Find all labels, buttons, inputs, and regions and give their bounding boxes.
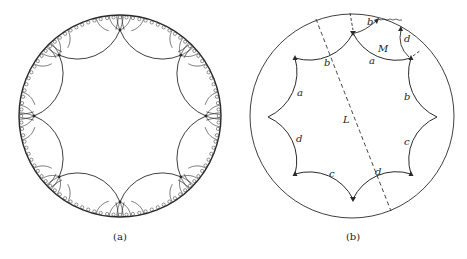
panel-b-fundamental-octagon (250, 13, 454, 218)
tiling-vertex (205, 115, 208, 118)
boundary-tile (22, 95, 25, 98)
tiling-edge (59, 30, 120, 59)
boundary-tile (106, 16, 109, 19)
boundary-tile (156, 206, 159, 209)
boundary-tile (173, 32, 176, 35)
boundary-tile (197, 54, 200, 57)
boundary-tile (118, 213, 121, 216)
dashed-segment-top (350, 13, 353, 30)
boundary-tile (112, 16, 115, 19)
boundary-tile (64, 32, 67, 35)
boundary-tile (162, 203, 165, 206)
tiling-edge (177, 55, 206, 116)
side-label-bottom-left: c (329, 168, 335, 179)
octagon-side (408, 58, 437, 117)
boundary-tile (20, 108, 23, 111)
boundary-tile (33, 164, 36, 167)
boundary-tile (64, 197, 67, 200)
boundary-tile (93, 210, 96, 213)
boundary-circle (19, 15, 221, 217)
boundary-tile (53, 40, 56, 43)
boundary-tile (193, 49, 196, 52)
boundary-tile (81, 206, 84, 209)
boundary-tile (138, 211, 141, 214)
side-label-upper-right: b (404, 91, 410, 102)
vertex-arrow (350, 197, 356, 202)
tiling-fan-geodesic (20, 105, 35, 140)
boundary-tile (87, 21, 90, 24)
boundary-tile (75, 26, 78, 29)
boundary-tile (179, 36, 182, 39)
tiling-fan-geodesic (109, 201, 144, 216)
boundary-tile (214, 89, 217, 92)
curve-label-M: M (377, 43, 389, 54)
boundary-tile (184, 40, 187, 43)
boundary-tile (156, 23, 159, 26)
tiling-edge (177, 116, 206, 177)
boundary-tile (207, 71, 210, 74)
boundary-circle (250, 14, 454, 218)
boundary-tile (53, 189, 56, 192)
octagon-side (409, 117, 437, 174)
tiling-vertex (58, 54, 61, 57)
boundary-tile (25, 83, 28, 86)
boundary-tile (144, 210, 147, 213)
tiling-edge (120, 173, 181, 202)
boundary-tile (201, 60, 204, 63)
boundary-tile (162, 26, 165, 29)
boundary-tile (210, 152, 213, 155)
boundary-tile (112, 213, 115, 216)
boundary-tile (22, 134, 25, 137)
tiling-edge (34, 55, 63, 116)
boundary-tile (36, 169, 39, 172)
boundary-tile (58, 36, 61, 39)
boundary-tile (188, 45, 191, 48)
boundary-tile (44, 49, 47, 52)
vertex-arrow (350, 31, 356, 36)
boundary-tile (106, 212, 109, 215)
boundary-tile (40, 54, 43, 57)
tiling-vertex (119, 29, 122, 32)
boundary-tile (27, 77, 30, 80)
tiling-vertex (119, 201, 122, 204)
boundary-tile (27, 152, 30, 155)
octagon-side (295, 172, 353, 199)
boundary-tile (49, 45, 52, 48)
boundary-tile (131, 212, 134, 215)
boundary-tile (93, 19, 96, 22)
figure: (a) (b) b a a b d c c d L M b d (0, 0, 467, 259)
boundary-tile (168, 29, 171, 32)
boundary-tile (215, 95, 218, 98)
boundary-tile (204, 164, 207, 167)
tiling-edge (59, 173, 120, 202)
boundary-tile (212, 83, 215, 86)
boundary-tile (204, 65, 207, 68)
boundary-tile (197, 175, 200, 178)
boundary-tile (184, 189, 187, 192)
tiling-vertex (179, 175, 182, 178)
boundary-tile (99, 211, 102, 214)
boundary-tile (69, 29, 72, 32)
boundary-tile (23, 140, 26, 143)
vertex-arrow (293, 55, 298, 60)
tiling-vertex (58, 175, 61, 178)
tiling-edge (120, 30, 181, 59)
boundary-tile (20, 121, 23, 124)
side-label-lower-right: c (404, 136, 410, 147)
vertex-arrow (409, 55, 414, 60)
boundary-tile (217, 114, 220, 117)
octagon-side (353, 172, 411, 199)
boundary-tile (125, 213, 128, 216)
boundary-tile (87, 208, 90, 211)
boundary-tile (216, 127, 219, 130)
boundary-tile (138, 18, 141, 21)
boundary-tile (201, 169, 204, 172)
boundary-tile (207, 158, 210, 161)
boundary-tile (216, 102, 219, 105)
boundary-tile (150, 208, 153, 211)
curve-label-L: L (342, 114, 350, 125)
boundary-tile (217, 121, 220, 124)
boundary-tile (33, 65, 36, 68)
caption-b: (b) (346, 231, 360, 242)
boundary-tile (212, 146, 215, 149)
